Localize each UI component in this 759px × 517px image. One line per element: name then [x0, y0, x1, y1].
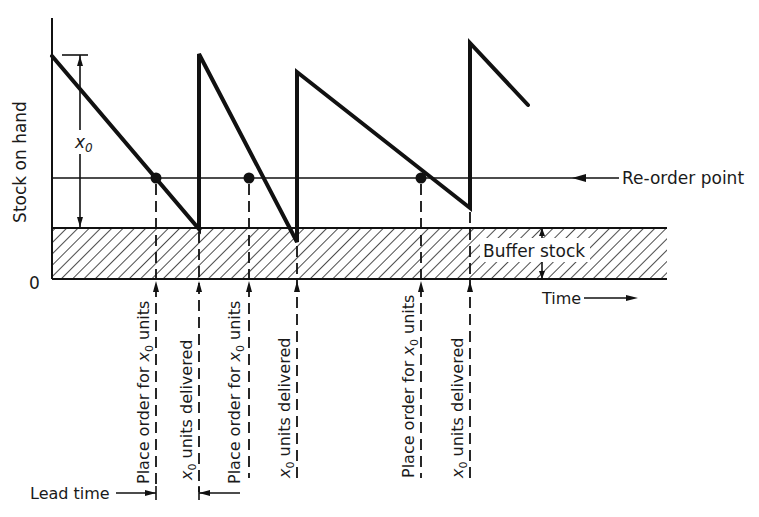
buffer-stock-band: Buffer stock — [52, 228, 667, 279]
event-labels: Place order for x0 units x0 units delive… — [134, 295, 470, 484]
order-point-marker — [151, 173, 162, 184]
event-label-delivery-1: x0 units delivered — [177, 340, 199, 481]
time-axis-label: Time — [541, 289, 581, 308]
x0-dimension: x0 — [62, 55, 93, 228]
buffer-stock-label: Buffer stock — [483, 241, 585, 261]
event-label-order-1: Place order for x0 units — [134, 301, 156, 484]
event-label-order-2: Place order for x0 units — [225, 301, 247, 484]
time-axis-label-group: Time — [541, 289, 638, 308]
event-label-delivery-3: x0 units delivered — [448, 338, 470, 479]
order-point-marker — [416, 173, 427, 184]
stock-level-line — [52, 43, 528, 242]
lead-time-indicator: Lead time — [30, 484, 240, 503]
origin-label: 0 — [29, 273, 40, 293]
lead-time-label: Lead time — [30, 484, 110, 503]
y-axis-label: Stock on hand — [10, 101, 30, 223]
event-label-order-3: Place order for x0 units — [399, 295, 421, 478]
inventory-reorder-diagram: Buffer stock 0 Stock on hand Re-order po… — [0, 0, 759, 517]
order-point-marker — [244, 173, 255, 184]
x0-symbol: x0 — [74, 132, 93, 155]
axes: 0 Stock on hand — [10, 18, 52, 293]
event-label-delivery-2: x0 units delivered — [275, 338, 297, 479]
reorder-point-label: Re-order point — [622, 168, 744, 188]
